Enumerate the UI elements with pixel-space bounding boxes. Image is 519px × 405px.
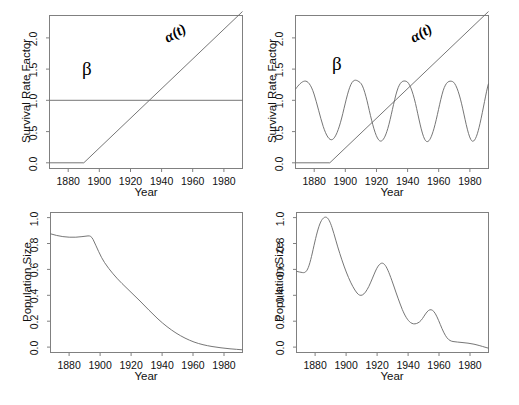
x-tick-marks <box>68 169 224 173</box>
x-tick-marks <box>314 169 470 173</box>
x-axis-title: Year <box>96 186 196 198</box>
x-axis-title: Year <box>96 370 196 382</box>
y-axis-title: Population Size <box>273 232 285 332</box>
x-tick-label: 1980 <box>204 359 244 371</box>
panel-top-left: 0.0 0.5 1.0 1.5 2.0 Survival Rate Factor… <box>0 0 260 205</box>
plot-frame <box>51 213 243 353</box>
x-tick-label: 1980 <box>450 359 490 371</box>
plot-frame <box>50 16 243 169</box>
y-axis-title: Survival Rate Factor <box>266 36 278 146</box>
y-tick-label: 0.0 <box>273 153 285 175</box>
y-axis-title: Survival Rate Factor <box>20 36 32 146</box>
x-axis-title: Year <box>342 186 442 198</box>
x-axis-title: Year <box>342 370 442 382</box>
x-tick-marks <box>315 353 470 357</box>
figure-container: 0.0 0.5 1.0 1.5 2.0 Survival Rate Factor… <box>0 0 519 405</box>
panel-bottom-left: 0.0 0.2 0.4 0.6 0.8 1.0 Population Size … <box>0 200 260 405</box>
y-tick-marks <box>293 218 297 348</box>
y-axis-title: Population Size <box>21 232 33 332</box>
y-tick-marks <box>47 218 51 348</box>
x-tick-label: 1980 <box>450 175 490 187</box>
y-tick-marks <box>46 38 50 163</box>
y-tick-label: 0.0 <box>27 153 39 175</box>
y-tick-label: 1.0 <box>274 208 286 230</box>
x-tick-marks <box>69 353 224 357</box>
y-tick-label: 0.0 <box>28 337 40 359</box>
curve-label-beta: β <box>332 53 342 75</box>
plot-frame <box>296 16 489 169</box>
y-tick-label: 1.0 <box>28 208 40 230</box>
y-tick-label: 0.0 <box>274 337 286 359</box>
x-tick-label: 1980 <box>204 175 244 187</box>
y-tick-marks <box>292 38 296 163</box>
curve-label-beta: β <box>82 58 92 80</box>
panel-bottom-right: 0.0 0.2 0.4 0.6 0.8 1.0 Population Size … <box>259 200 519 405</box>
panel-top-right: 0.0 0.5 1.0 1.5 2.0 Survival Rate Factor… <box>259 0 519 205</box>
